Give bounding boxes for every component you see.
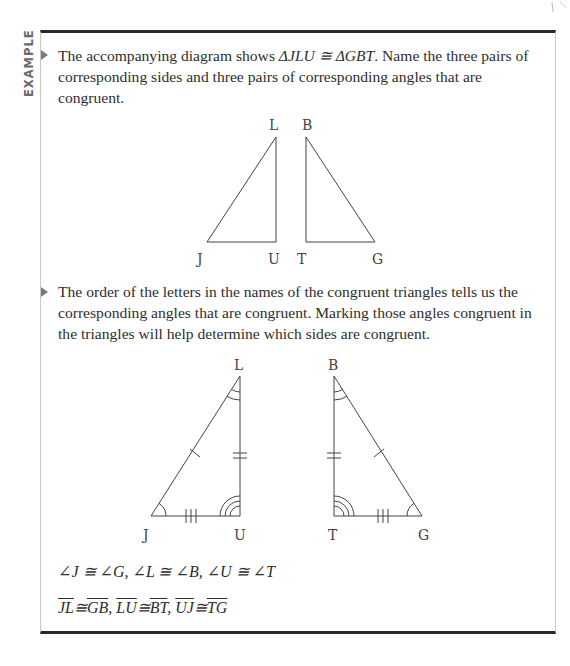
segment-gb: GB [87,599,108,616]
segment-lu: LU [116,599,136,616]
triangle-jlu [151,376,240,516]
vertex-label-u: U [234,527,246,543]
diagram-triangles-marked: L B J U T G [0,0,570,560]
segment-tg: TG [207,599,227,616]
vertex-label-b: B [328,357,338,373]
triangle-gbt [334,376,422,516]
vertex-label-g: G [418,527,429,543]
angle-congruences: ∠J ≅ ∠G, ∠L ≅ ∠B, ∠U ≅ ∠T [58,562,275,581]
segment-uj: UJ [175,599,194,616]
vertex-label-l: L [234,357,243,373]
segment-bt: BT [150,599,167,616]
segment-jl: JL [58,599,74,616]
vertex-label-j: J [141,527,149,543]
side-congruences: JL≅GB, LU≅BT, UJ≅TG [58,598,227,617]
vertex-label-t: T [328,527,338,543]
